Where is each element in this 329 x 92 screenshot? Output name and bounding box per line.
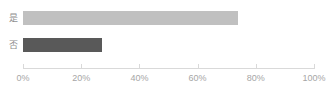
category-label-1: 否 [0, 38, 18, 52]
x-axis-tick [198, 64, 199, 69]
x-axis-tick-label: 40% [130, 73, 148, 83]
bar-1 [23, 38, 102, 52]
x-axis-tick [23, 64, 24, 69]
bar-chart: 是 否 0%20%40%60%80%100% [0, 0, 329, 92]
bar-0 [23, 11, 238, 25]
bar-row: 是 [0, 11, 329, 25]
x-axis-tick-label: 80% [247, 73, 265, 83]
x-axis-line [23, 68, 314, 69]
x-axis-tick [81, 64, 82, 69]
x-axis-tick-label: 20% [72, 73, 90, 83]
x-axis-tick [256, 64, 257, 69]
x-axis-tick-label: 0% [16, 73, 29, 83]
x-axis-tick [139, 64, 140, 69]
plot-area: 是 否 [0, 0, 329, 92]
x-axis-tick-label: 100% [302, 73, 325, 83]
x-axis-tick-label: 60% [189, 73, 207, 83]
x-axis-tick [314, 64, 315, 69]
bar-row: 否 [0, 38, 329, 52]
category-label-0: 是 [0, 11, 18, 25]
